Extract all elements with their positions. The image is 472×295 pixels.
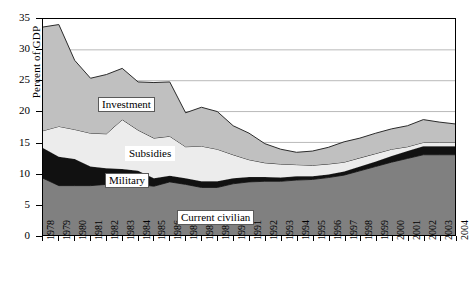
chart-figure: Percent of GDP 05101520253035 1978197919… (0, 0, 472, 295)
y-tick-label-15: 15 (0, 137, 30, 148)
x-tick-mark-1986 (169, 236, 170, 241)
y-tick-label-0: 0 (0, 230, 30, 241)
x-tick-mark-1991 (249, 236, 250, 241)
y-tick-label-5: 5 (0, 199, 30, 210)
x-tick-label-1991: 1991 (253, 200, 263, 240)
x-tick-mark-1994 (297, 236, 298, 241)
y-tick-label-30: 30 (0, 43, 30, 54)
x-tick-mark-1985 (153, 236, 154, 241)
x-tick-label-1984: 1984 (142, 200, 152, 240)
x-tick-mark-1996 (329, 236, 330, 241)
x-tick-label-1993: 1993 (285, 200, 295, 240)
x-tick-mark-2002 (424, 236, 425, 241)
x-tick-mark-1999 (376, 236, 377, 241)
series-label-current-civilian: Current civilian (177, 210, 254, 225)
x-tick-label-2003: 2003 (444, 200, 454, 240)
stacked-area-svg (43, 19, 455, 235)
x-tick-mark-1980 (74, 236, 75, 241)
x-tick-label-1985: 1985 (157, 200, 167, 240)
series-label-military: Military (105, 173, 149, 188)
x-tick-mark-2000 (392, 236, 393, 241)
x-tick-mark-2004 (456, 236, 457, 241)
y-tick-label-35: 35 (0, 12, 30, 23)
x-tick-mark-1987 (185, 236, 186, 241)
x-tick-mark-1997 (345, 236, 346, 241)
x-tick-label-1997: 1997 (349, 200, 359, 240)
x-tick-label-1978: 1978 (46, 200, 56, 240)
x-tick-label-1982: 1982 (110, 200, 120, 240)
x-tick-label-2000: 2000 (396, 200, 406, 240)
x-tick-label-1995: 1995 (317, 200, 327, 240)
x-tick-label-1983: 1983 (126, 200, 136, 240)
y-tick-label-25: 25 (0, 74, 30, 85)
x-tick-label-1992: 1992 (269, 200, 279, 240)
x-tick-mark-1979 (58, 236, 59, 241)
x-tick-mark-1998 (360, 236, 361, 241)
y-tick-label-10: 10 (0, 168, 30, 179)
series-label-subsidies: Subsidies (125, 146, 175, 161)
x-tick-mark-1989 (217, 236, 218, 241)
x-tick-mark-1992 (265, 236, 266, 241)
x-tick-mark-1988 (201, 236, 202, 241)
y-tick-label-20: 20 (0, 105, 30, 116)
x-tick-mark-1983 (122, 236, 123, 241)
x-tick-mark-1990 (233, 236, 234, 241)
x-tick-label-1999: 1999 (380, 200, 390, 240)
x-tick-mark-1978 (42, 236, 43, 241)
x-tick-mark-1981 (90, 236, 91, 241)
x-tick-label-2001: 2001 (412, 200, 422, 240)
x-tick-mark-1982 (106, 236, 107, 241)
x-tick-mark-1984 (138, 236, 139, 241)
x-tick-label-1996: 1996 (333, 200, 343, 240)
x-tick-label-1980: 1980 (78, 200, 88, 240)
x-tick-mark-2001 (408, 236, 409, 241)
x-tick-mark-1993 (281, 236, 282, 241)
x-tick-label-1981: 1981 (94, 200, 104, 240)
x-tick-label-1979: 1979 (62, 200, 72, 240)
series-label-investment: Investment (98, 97, 155, 112)
y-axis-title: Percent of GDP (30, 0, 42, 142)
area-series-group (43, 25, 455, 235)
plot-area (42, 18, 456, 236)
x-tick-label-1994: 1994 (301, 200, 311, 240)
x-tick-label-1998: 1998 (364, 200, 374, 240)
x-tick-label-2004: 2004 (460, 200, 470, 240)
x-tick-mark-2003 (440, 236, 441, 241)
x-tick-mark-1995 (313, 236, 314, 241)
x-tick-label-2002: 2002 (428, 200, 438, 240)
